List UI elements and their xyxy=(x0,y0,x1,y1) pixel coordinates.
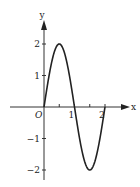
y-tick-label: 2 xyxy=(34,39,40,49)
origin-label: O xyxy=(35,110,43,120)
y-axis-label: y xyxy=(38,10,45,20)
chart: x y O 12 21−1−2 xyxy=(0,0,140,187)
y-axis-arrow-icon xyxy=(41,20,47,30)
x-axis-arrow-icon xyxy=(121,104,130,110)
y-tick-label: 1 xyxy=(34,71,40,81)
x-axis-label: x xyxy=(131,102,136,112)
x-tick-label: 1 xyxy=(69,110,75,120)
y-tick-label: −1 xyxy=(27,134,40,144)
y-tick-label: −2 xyxy=(27,165,40,175)
